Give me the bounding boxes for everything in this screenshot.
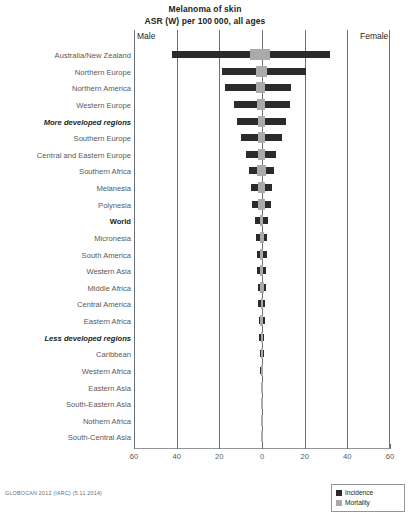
bar-row: Nothern Africa bbox=[0, 414, 410, 431]
category-label: Central America bbox=[77, 297, 131, 314]
axis-tick-label: 60 bbox=[121, 452, 147, 461]
legend-item-incidence: Incidence bbox=[336, 488, 400, 497]
right-mortality-bar bbox=[262, 249, 263, 260]
axis-tick-label: 20 bbox=[206, 452, 232, 461]
right-mortality-bar bbox=[262, 116, 265, 127]
category-label: Western Asia bbox=[86, 264, 131, 281]
bar-row: Eastern Africa bbox=[0, 314, 410, 331]
right-incidence-bar bbox=[262, 68, 306, 75]
right-incidence-bar bbox=[262, 84, 291, 91]
legend-label-incidence: Incidence bbox=[345, 488, 373, 497]
right-mortality-bar bbox=[262, 232, 264, 243]
right-mortality-bar bbox=[262, 215, 263, 226]
bar-row: South-Eastern Asia bbox=[0, 397, 410, 414]
category-label: South-Eastern Asia bbox=[66, 397, 131, 414]
source-footer: GLOBOCAN 2012 (IARC) (5.11.2014) bbox=[5, 490, 102, 496]
bar-row: Micronesia bbox=[0, 231, 410, 248]
category-label: Middle Africa bbox=[88, 281, 131, 298]
axis-tick-label: 60 bbox=[377, 452, 403, 461]
right-mortality-bar bbox=[262, 398, 263, 409]
bar-row: Northern Europe bbox=[0, 65, 410, 82]
category-label: Northern Europe bbox=[75, 65, 131, 82]
axis-tick bbox=[177, 444, 178, 449]
category-label: Western Africa bbox=[82, 364, 131, 381]
category-label: Northern America bbox=[72, 81, 131, 98]
category-label: Southern Africa bbox=[79, 164, 131, 181]
category-label: Nothern Africa bbox=[83, 414, 131, 431]
category-label: Melanesia bbox=[96, 181, 131, 198]
right-mortality-bar bbox=[262, 382, 263, 393]
bar-row: Middle Africa bbox=[0, 281, 410, 298]
category-label: Less developed regions bbox=[44, 331, 131, 348]
bar-row: Melanesia bbox=[0, 181, 410, 198]
right-mortality-bar bbox=[262, 298, 263, 309]
bar-rows: Australia/New ZealandNorthern EuropeNort… bbox=[0, 48, 410, 447]
bar-row: Western Europe bbox=[0, 98, 410, 115]
category-label: South America bbox=[82, 248, 131, 265]
axis-tick-label: 40 bbox=[334, 452, 360, 461]
bar-row: Caribbean bbox=[0, 347, 410, 364]
axis-tick-label: 20 bbox=[292, 452, 318, 461]
bar-row: Northern America bbox=[0, 81, 410, 98]
bar-row: Eastern Asia bbox=[0, 381, 410, 398]
category-label: World bbox=[110, 214, 131, 231]
chart-title: Melanoma of skin bbox=[0, 4, 410, 16]
right-mortality-bar bbox=[262, 66, 267, 77]
right-mortality-bar bbox=[262, 315, 263, 326]
right-incidence-bar bbox=[262, 118, 286, 125]
legend-item-mortality: Mortality bbox=[336, 498, 400, 507]
right-mortality-bar bbox=[262, 49, 270, 60]
category-label: Micronesia bbox=[94, 231, 131, 248]
bar-row: Polynesia bbox=[0, 198, 410, 215]
bar-row: Southern Europe bbox=[0, 131, 410, 148]
category-label: Western Europe bbox=[76, 98, 131, 115]
incidence-swatch-icon bbox=[336, 490, 342, 496]
left-mortality-bar bbox=[250, 49, 262, 60]
right-mortality-bar bbox=[262, 199, 265, 210]
axis-tick bbox=[347, 444, 348, 449]
right-mortality-bar bbox=[262, 182, 265, 193]
bar-row: South America bbox=[0, 248, 410, 265]
right-mortality-bar bbox=[262, 365, 263, 376]
bar-row: South-Central Asia bbox=[0, 430, 410, 447]
right-mortality-bar bbox=[262, 282, 264, 293]
chart-subtitle: ASR (W) per 100 000, all ages bbox=[0, 16, 410, 28]
chart-legend: Incidence Mortality bbox=[331, 484, 405, 512]
right-mortality-bar bbox=[262, 431, 263, 442]
right-mortality-bar bbox=[262, 82, 265, 93]
bar-row: Australia/New Zealand bbox=[0, 48, 410, 65]
right-mortality-bar bbox=[262, 415, 263, 426]
right-incidence-bar bbox=[262, 51, 330, 58]
chart-root: Melanoma of skin ASR (W) per 100 000, al… bbox=[0, 0, 410, 521]
axis-tick bbox=[305, 444, 306, 449]
category-label: More developed regions bbox=[44, 115, 131, 132]
bar-row: More developed regions bbox=[0, 115, 410, 132]
right-incidence-bar bbox=[262, 101, 290, 108]
bar-row: Western Asia bbox=[0, 264, 410, 281]
category-label: Southern Europe bbox=[74, 131, 131, 148]
legend-label-mortality: Mortality bbox=[345, 498, 370, 507]
axis-tick bbox=[219, 444, 220, 449]
category-label: Polynesia bbox=[98, 198, 131, 215]
category-label: Eastern Africa bbox=[84, 314, 131, 331]
right-mortality-bar bbox=[262, 132, 265, 143]
bar-row: Central America bbox=[0, 297, 410, 314]
category-label: Central and Eastern Europe bbox=[37, 148, 131, 165]
category-label: Caribbean bbox=[96, 347, 131, 364]
bar-row: Central and Eastern Europe bbox=[0, 148, 410, 165]
axis-tick-label: 0 bbox=[249, 452, 275, 461]
left-incidence-bar bbox=[172, 51, 262, 58]
axis-tick bbox=[390, 444, 391, 449]
category-label: South-Central Asia bbox=[68, 430, 131, 447]
axis-tick bbox=[262, 444, 263, 449]
bar-row: Southern Africa bbox=[0, 164, 410, 181]
right-mortality-bar bbox=[262, 265, 263, 276]
bar-row: World bbox=[0, 214, 410, 231]
category-label: Eastern Asia bbox=[88, 381, 131, 398]
axis-tick bbox=[134, 444, 135, 449]
bar-row: Less developed regions bbox=[0, 331, 410, 348]
bar-row: Western Africa bbox=[0, 364, 410, 381]
category-label: Australia/New Zealand bbox=[55, 48, 131, 65]
right-mortality-bar bbox=[262, 165, 266, 176]
mortality-swatch-icon bbox=[336, 500, 342, 506]
